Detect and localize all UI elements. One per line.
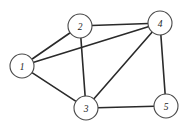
graph-node-3[interactable]: 3: [74, 96, 98, 120]
graph-node-label-4: 4: [158, 19, 163, 29]
graph-figure: 12345: [0, 0, 190, 126]
graph-node-5[interactable]: 5: [154, 94, 178, 118]
graph-node-label-1: 1: [20, 62, 25, 72]
edge-layer: [31, 23, 165, 107]
graph-node-4[interactable]: 4: [148, 11, 172, 35]
graph-node-label-5: 5: [164, 102, 169, 112]
graph-node-1[interactable]: 1: [10, 54, 34, 78]
graph-edge-1-2: [31, 33, 70, 60]
graph-node-2[interactable]: 2: [68, 14, 92, 38]
graph-canvas: 12345: [0, 0, 190, 126]
graph-node-label-2: 2: [78, 22, 83, 32]
graph-edge-2-4: [91, 23, 148, 25]
graph-edge-1-3: [32, 72, 77, 101]
graph-edge-3-5: [98, 106, 155, 107]
graph-edge-3-4: [94, 32, 153, 100]
node-layer: 12345: [10, 11, 178, 120]
graph-edge-4-5: [161, 34, 165, 94]
graph-node-label-3: 3: [83, 104, 89, 114]
